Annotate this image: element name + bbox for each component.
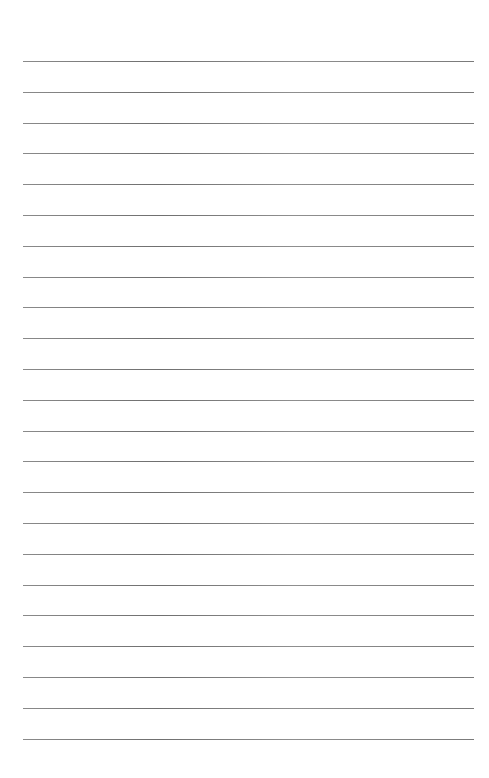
ruled-line <box>23 492 474 493</box>
lined-paper-page <box>0 0 489 778</box>
ruled-line <box>23 708 474 709</box>
ruled-line <box>23 677 474 678</box>
ruled-line <box>23 431 474 432</box>
ruled-line <box>23 123 474 124</box>
ruled-line <box>23 184 474 185</box>
ruled-line <box>23 585 474 586</box>
ruled-line <box>23 61 474 62</box>
ruled-line <box>23 646 474 647</box>
ruled-line <box>23 615 474 616</box>
ruled-line <box>23 739 474 740</box>
ruled-line <box>23 554 474 555</box>
ruled-line <box>23 246 474 247</box>
ruled-line <box>23 400 474 401</box>
ruled-line <box>23 92 474 93</box>
ruled-line <box>23 277 474 278</box>
ruled-line <box>23 523 474 524</box>
ruled-line <box>23 307 474 308</box>
ruled-line <box>23 461 474 462</box>
ruled-line <box>23 338 474 339</box>
ruled-line <box>23 369 474 370</box>
ruled-line <box>23 153 474 154</box>
ruled-line <box>23 215 474 216</box>
